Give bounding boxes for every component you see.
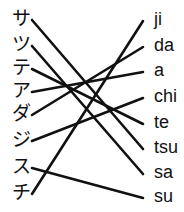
romaji-column: jidaachitetsusasu [146,0,184,212]
katakana-item-5[interactable]: ジ [4,128,38,150]
katakana-item-7[interactable]: チ [4,181,38,203]
line-sa-to-tsu[interactable] [32,20,143,149]
romaji-item-0[interactable]: ji [154,8,162,30]
romaji-item-7[interactable]: su [154,185,173,207]
katakana-column: サツテアダジスチ [0,0,40,212]
line-chi-to-ji[interactable] [32,21,143,194]
line-te-to-te[interactable] [32,69,143,124]
katakana-item-6[interactable]: ス [4,155,38,177]
katakana-item-2[interactable]: テ [4,56,38,78]
line-tsu-to-sa[interactable] [32,46,143,174]
katakana-item-4[interactable]: ダ [4,102,38,124]
romaji-item-4[interactable]: te [154,111,169,133]
romaji-item-2[interactable]: a [154,59,164,81]
katakana-item-1[interactable]: ツ [4,33,38,55]
matching-exercise: サツテアダジスチ jidaachitetsusasu [0,0,184,212]
katakana-item-0[interactable]: サ [4,7,38,29]
romaji-item-6[interactable]: sa [154,161,173,183]
romaji-item-1[interactable]: da [154,34,174,56]
line-su-to-su[interactable] [32,168,143,198]
katakana-item-3[interactable]: ア [4,79,38,101]
romaji-item-5[interactable]: tsu [154,136,178,158]
romaji-item-3[interactable]: chi [154,85,177,107]
